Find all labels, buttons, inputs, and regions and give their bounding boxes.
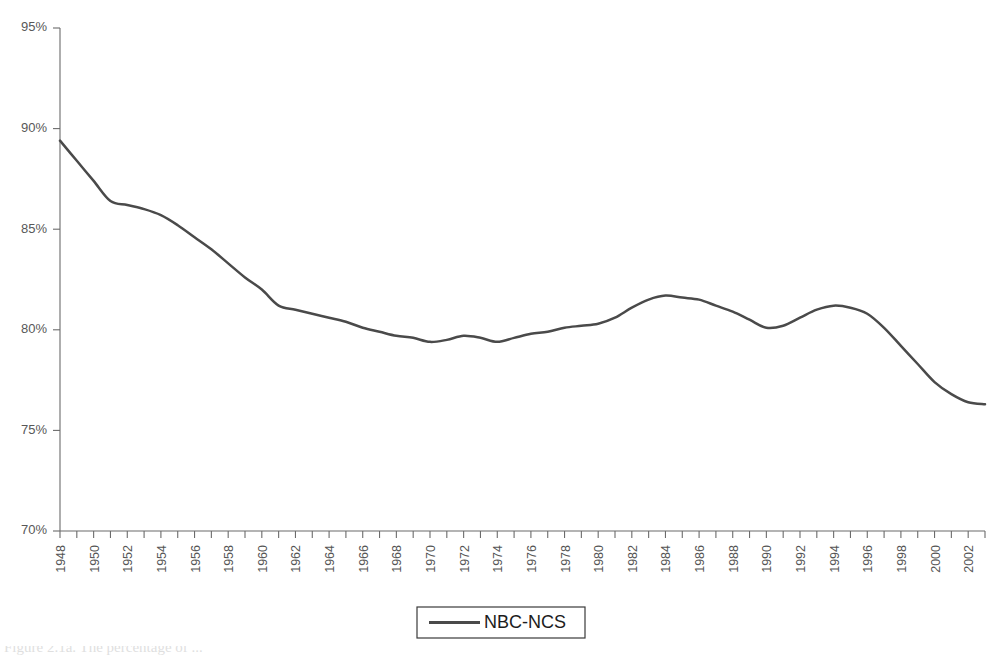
x-tick-label: 2000 xyxy=(929,545,943,573)
y-tick-label: 90% xyxy=(21,120,47,135)
x-tick-label: 1954 xyxy=(155,545,169,573)
x-tick-label: 1950 xyxy=(88,545,102,573)
y-tick-label: 75% xyxy=(21,422,47,437)
x-tick-label: 1970 xyxy=(424,545,438,573)
x-tick-label: 1976 xyxy=(525,545,539,573)
x-tick-label: 1980 xyxy=(592,545,606,573)
y-tick-label: 95% xyxy=(21,19,47,34)
x-tick-label: 1952 xyxy=(121,545,135,573)
figure-caption-strip: Figure 2.1a. The percentage of ... xyxy=(0,646,1004,656)
y-tick-label: 70% xyxy=(21,522,47,537)
x-tick-label: 1966 xyxy=(357,545,371,573)
x-tick-label: 1984 xyxy=(659,545,673,573)
x-tick-label: 1960 xyxy=(256,545,270,573)
x-tick-label: 1996 xyxy=(861,545,875,573)
figure-caption: Figure 2.1a. The percentage of ... xyxy=(4,646,203,656)
x-tick-label: 1964 xyxy=(323,545,337,573)
y-tick-label: 85% xyxy=(21,221,47,236)
x-tick-label: 1992 xyxy=(794,545,808,573)
x-tick-label: 1962 xyxy=(289,545,303,573)
x-tick-label: 2002 xyxy=(962,545,976,573)
line-chart: 95%90%85%80%75%70% 194819501952195419561… xyxy=(0,0,1004,656)
x-tick-label: 1998 xyxy=(895,545,909,573)
chart-legend: NBC-NCS xyxy=(417,607,585,638)
legend-entry-label: NBC-NCS xyxy=(484,612,566,632)
x-tick-label: 1972 xyxy=(458,545,472,573)
x-tick-label: 1948 xyxy=(54,545,68,573)
x-tick-label: 1968 xyxy=(390,545,404,573)
x-tick-label: 1978 xyxy=(559,545,573,573)
x-tick-label: 1994 xyxy=(828,545,842,573)
x-tick-label: 1956 xyxy=(189,545,203,573)
x-tick-label: 1958 xyxy=(222,545,236,573)
y-tick-label: 80% xyxy=(21,321,47,336)
x-tick-label: 1988 xyxy=(727,545,741,573)
x-tick-label: 1974 xyxy=(491,545,505,573)
chart-container: 95%90%85%80%75%70% 194819501952195419561… xyxy=(0,0,1004,656)
x-tick-label: 1986 xyxy=(693,545,707,573)
x-tick-label: 1990 xyxy=(760,545,774,573)
x-tick-label: 1982 xyxy=(626,545,640,573)
